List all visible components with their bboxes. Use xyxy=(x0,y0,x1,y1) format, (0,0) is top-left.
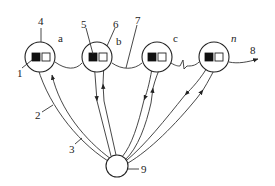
link-c-up xyxy=(125,103,151,160)
callout-2: 2 xyxy=(35,109,41,121)
node-b-open-square xyxy=(99,53,107,61)
link-n-up-2 xyxy=(197,90,203,98)
node-label-c: c xyxy=(173,32,178,44)
leader-7 xyxy=(126,25,137,68)
leader-2 xyxy=(42,105,53,112)
output-arrow-8 xyxy=(229,59,258,63)
hub-circle xyxy=(106,155,128,177)
bus-line-c-zigzag xyxy=(171,60,199,69)
diagram-canvas: 4 1 2 3 5 6 7 8 9 a b c n xyxy=(0,0,275,186)
node-a xyxy=(25,42,55,72)
leader-6 xyxy=(107,28,115,46)
node-b-filled-square xyxy=(89,53,97,61)
link-n-up xyxy=(128,98,197,163)
callout-7: 7 xyxy=(135,14,141,26)
callout-6: 6 xyxy=(113,18,119,30)
node-a-filled-square xyxy=(32,53,40,61)
node-c-open-square xyxy=(158,53,166,61)
link-c-up-2 xyxy=(151,88,153,103)
node-n-circle xyxy=(199,42,229,72)
leader-3 xyxy=(75,138,82,144)
bus-line-a-b xyxy=(55,62,82,68)
link-b-up-2 xyxy=(103,84,104,101)
node-label-b: b xyxy=(116,35,122,47)
node-n-filled-square xyxy=(205,53,213,61)
node-n-open-square xyxy=(215,53,223,61)
callout-5: 5 xyxy=(81,18,87,30)
link-n-down-2 xyxy=(127,95,185,160)
node-c-filled-square xyxy=(148,53,156,61)
node-label-n: n xyxy=(231,32,237,44)
callout-3: 3 xyxy=(69,143,75,155)
node-label-a: a xyxy=(58,32,63,44)
callout-9: 9 xyxy=(141,163,147,175)
callout-8: 8 xyxy=(250,44,256,56)
node-c-circle xyxy=(142,42,172,72)
link-c-down-2 xyxy=(122,100,144,157)
node-b xyxy=(82,42,112,72)
link-b-down-2 xyxy=(97,101,111,156)
node-n xyxy=(199,42,229,72)
callout-4: 4 xyxy=(38,15,44,27)
node-c xyxy=(142,42,172,72)
link-a-up xyxy=(52,75,111,159)
link-b-up xyxy=(104,101,116,155)
node-a-open-square xyxy=(42,53,50,61)
callout-1: 1 xyxy=(17,67,23,79)
